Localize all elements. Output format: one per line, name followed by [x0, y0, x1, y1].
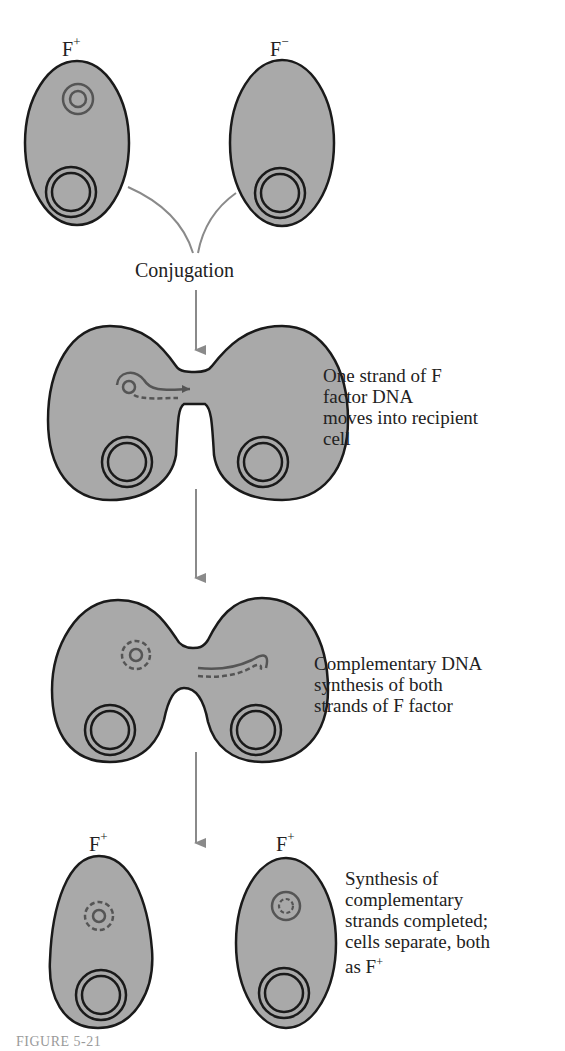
- f-plus-cell-stage1: [25, 61, 129, 225]
- description-line: moves into recipient: [323, 407, 478, 428]
- description-line: complementary: [345, 889, 490, 910]
- stage3-description: Complementary DNA synthesis of both stra…: [314, 653, 482, 716]
- cell-label-text: F: [270, 38, 281, 60]
- conjugating-cells-stage2: [48, 326, 348, 500]
- conjugation-label: Conjugation: [135, 260, 234, 281]
- description-line: as F+: [345, 952, 490, 977]
- conjugation-connector-right: [198, 193, 236, 253]
- description-line: factor DNA: [323, 386, 478, 407]
- stage2-description: One strand of F factor DNA moves into re…: [323, 365, 478, 449]
- conjugating-cells-stage3: [52, 598, 328, 762]
- f-plus-label: F+: [62, 33, 80, 60]
- cell-label-sup: +: [287, 829, 294, 844]
- cell-label-text: F: [89, 833, 100, 855]
- description-line: Synthesis of: [345, 868, 490, 889]
- description-line: cells separate, both: [345, 931, 490, 952]
- f-minus-label: F−: [270, 33, 288, 60]
- cell-label-sup: −: [281, 34, 288, 49]
- description-line: cell: [323, 428, 478, 449]
- f-plus-cell-left-stage4: [50, 856, 152, 1028]
- cell-label-sup: +: [73, 34, 80, 49]
- description-sup: +: [376, 955, 383, 969]
- description-line: strands of F factor: [314, 695, 482, 716]
- f-minus-cell-stage1: [230, 60, 334, 226]
- conjugation-connector-left: [128, 187, 193, 253]
- cell-label-text: F: [62, 38, 73, 60]
- description-line: One strand of F: [323, 365, 478, 386]
- description-line: strands completed;: [345, 910, 490, 931]
- description-line: Complementary DNA: [314, 653, 482, 674]
- cell-label-sup: +: [100, 829, 107, 844]
- f-plus-label-left: F+: [89, 828, 107, 855]
- description-line: synthesis of both: [314, 674, 482, 695]
- f-plus-cell-right-stage4: [236, 858, 336, 1028]
- cell-label-text: F: [276, 833, 287, 855]
- f-plus-label-right: F+: [276, 828, 294, 855]
- stage4-description: Synthesis of complementary strands compl…: [345, 868, 490, 977]
- figure-caption: FIGURE 5-21: [16, 1034, 101, 1050]
- description-text: as F: [345, 956, 376, 977]
